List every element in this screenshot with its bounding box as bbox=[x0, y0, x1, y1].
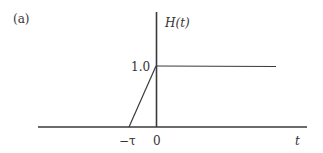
ramp-function-figure: (a) H(t) 1.0 −τ 0 t bbox=[0, 0, 323, 153]
y-tick-label-1: 1.0 bbox=[131, 60, 150, 74]
ramp-segment bbox=[129, 66, 156, 127]
x-tick-label-neg-tau: −τ bbox=[119, 134, 136, 148]
y-axis-label: H(t) bbox=[164, 16, 190, 30]
panel-label: (a) bbox=[13, 12, 30, 26]
x-axis-label: t bbox=[295, 134, 300, 148]
x-tick-label-zero: 0 bbox=[153, 134, 161, 148]
plateau-segment bbox=[156, 66, 276, 67]
